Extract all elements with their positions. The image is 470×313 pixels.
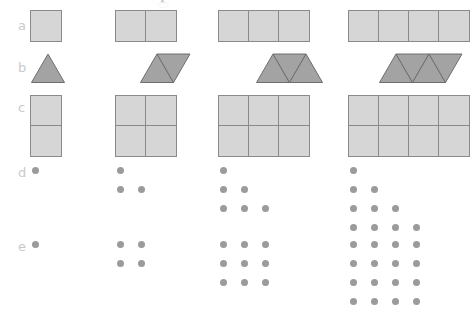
row-d: d [0, 160, 460, 232]
unit-square [146, 11, 176, 41]
row-b: b [0, 50, 460, 92]
dot-array-row-d [0, 160, 460, 232]
dot [350, 205, 357, 212]
unit-square [379, 96, 409, 126]
dot [350, 241, 357, 248]
dot [350, 186, 357, 193]
square-strip-4 [348, 10, 470, 42]
unit-square [249, 126, 279, 156]
dot [220, 205, 227, 212]
square-strip-2 [115, 10, 177, 42]
dot [371, 205, 378, 212]
dot [262, 205, 269, 212]
square-strip-3 [218, 10, 310, 42]
triangle-group-3 [255, 52, 330, 84]
unit-square [219, 126, 249, 156]
dot [138, 186, 145, 193]
dot [371, 260, 378, 267]
unit-square [379, 11, 409, 41]
unit-square [146, 126, 176, 156]
dot [220, 241, 227, 248]
dot [220, 260, 227, 267]
triangle-group-2 [139, 52, 199, 84]
dot [241, 186, 248, 193]
dot [138, 260, 145, 267]
square-strip-1 [30, 10, 62, 42]
dot [413, 279, 420, 286]
unit-square [439, 11, 469, 41]
row-a: a [0, 0, 460, 45]
unit-square [249, 96, 279, 126]
dot [413, 224, 420, 231]
unit-square [349, 126, 379, 156]
unit-square [379, 126, 409, 156]
unit-square [146, 96, 176, 126]
row-e: e [0, 234, 460, 313]
dot [262, 241, 269, 248]
dot [350, 224, 357, 231]
row-label-c: c [18, 101, 25, 114]
dot [392, 205, 399, 212]
dot [117, 241, 124, 248]
unit-square [116, 11, 146, 41]
dot [241, 279, 248, 286]
dot [392, 241, 399, 248]
dot [392, 298, 399, 305]
dot [241, 260, 248, 267]
unit-square [31, 126, 61, 156]
dot [220, 186, 227, 193]
dot [350, 260, 357, 267]
dot [392, 260, 399, 267]
unit-square [219, 96, 249, 126]
dot [220, 167, 227, 174]
dot [32, 167, 39, 174]
unit-square [31, 96, 61, 126]
triangle-group-4 [378, 52, 463, 84]
unit-square [279, 96, 309, 126]
unit-square [439, 126, 469, 156]
dot [32, 241, 39, 248]
triangle-group-1 [30, 52, 70, 84]
dot [117, 186, 124, 193]
dot [241, 241, 248, 248]
unit-square [31, 11, 61, 41]
row-label-a: a [18, 19, 26, 32]
unit-square [279, 126, 309, 156]
unit-square [219, 11, 249, 41]
square-grid-4x2 [348, 95, 470, 157]
triangle-up [32, 54, 65, 83]
dot [350, 298, 357, 305]
unit-square [409, 11, 439, 41]
dot [262, 260, 269, 267]
dot [241, 205, 248, 212]
dot [350, 279, 357, 286]
dot-array-row-e [0, 234, 460, 313]
dot [371, 241, 378, 248]
dot [350, 167, 357, 174]
square-grid-3x2 [218, 95, 310, 157]
dot [392, 279, 399, 286]
dot [371, 298, 378, 305]
dot [413, 260, 420, 267]
unit-square [279, 11, 309, 41]
dot [392, 224, 399, 231]
dot [371, 186, 378, 193]
dot [371, 279, 378, 286]
unit-square [409, 126, 439, 156]
dot [371, 224, 378, 231]
dot [117, 167, 124, 174]
dot [413, 241, 420, 248]
row-label-b: b [18, 61, 26, 74]
dot [117, 260, 124, 267]
unit-square [349, 11, 379, 41]
unit-square [439, 96, 469, 126]
unit-square [349, 96, 379, 126]
dot [262, 279, 269, 286]
unit-square [409, 96, 439, 126]
dot [413, 298, 420, 305]
unit-square [116, 96, 146, 126]
unit-square [116, 126, 146, 156]
row-c: c [0, 92, 460, 160]
dot [138, 241, 145, 248]
